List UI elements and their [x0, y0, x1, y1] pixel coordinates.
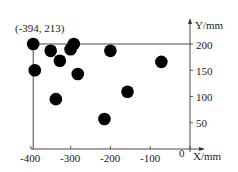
data-point: [27, 38, 40, 51]
x-tick-label: -200: [100, 153, 120, 164]
axes: [31, 18, 205, 152]
annotation-label: (-394, 213): [15, 23, 65, 34]
origin-label: 0: [179, 148, 185, 159]
x-tick-label: -400: [20, 153, 40, 164]
y-tick-label: 100: [196, 92, 213, 103]
y-axis-title: Y/mm: [195, 20, 223, 31]
data-point: [155, 56, 168, 69]
data-point: [121, 85, 134, 98]
data-point: [50, 93, 63, 106]
data-point: [54, 55, 67, 68]
x-tick-label: -100: [140, 153, 160, 164]
data-point: [28, 64, 41, 77]
y-tick-label: 150: [196, 66, 213, 77]
data-point: [67, 38, 80, 51]
data-point: [71, 68, 84, 81]
data-point: [98, 113, 111, 126]
data-point: [104, 45, 117, 58]
x-axis-title: X/mm: [193, 151, 221, 162]
y-tick-label: 50: [196, 118, 207, 129]
data-points: [27, 38, 168, 126]
y-tick-label: 200: [196, 40, 213, 51]
data-point: [44, 45, 57, 58]
x-tick-label: -300: [60, 153, 80, 164]
